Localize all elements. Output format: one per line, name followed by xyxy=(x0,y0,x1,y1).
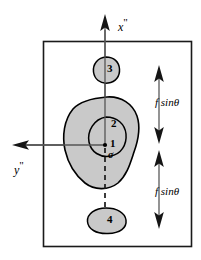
dimension-bottom-label: f sinθ xyxy=(155,186,179,197)
origin-point xyxy=(103,143,107,147)
region-4-label: 4 xyxy=(107,214,113,225)
diagram-canvas xyxy=(0,0,201,260)
y-axis-label: y" xyxy=(14,160,23,176)
x-axis-prime: " xyxy=(123,16,127,28)
dimension-top-label: f sinθ xyxy=(155,97,179,108)
y-axis-prime: " xyxy=(19,159,23,171)
origin-sigma-label: σ xyxy=(108,150,113,160)
region-2-label: 2 xyxy=(111,118,117,129)
x-axis-label: x" xyxy=(118,17,127,33)
region-1-label: 1 xyxy=(110,138,116,149)
region-3-label: 3 xyxy=(107,63,113,74)
figure-container: x" y" 1 2 3 4 σ f sinθ f sinθ xyxy=(0,0,201,260)
